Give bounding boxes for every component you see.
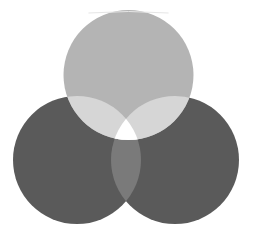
venn-svg xyxy=(0,0,257,241)
venn-diagram xyxy=(0,0,257,241)
